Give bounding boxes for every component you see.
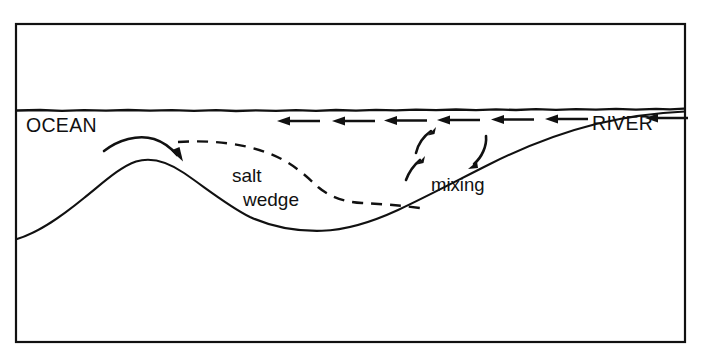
label-salt: salt xyxy=(232,165,262,186)
label-wedge: wedge xyxy=(242,189,299,210)
label-mixing: mixing xyxy=(431,174,484,195)
label-river: RIVER xyxy=(592,112,653,134)
diagram-frame-border xyxy=(16,24,685,342)
label-ocean: OCEAN xyxy=(26,114,97,136)
estuary-diagram-figure: OCEAN RIVER salt wedge mixing xyxy=(0,0,701,360)
diagram-canvas: OCEAN RIVER salt wedge mixing xyxy=(0,0,701,360)
